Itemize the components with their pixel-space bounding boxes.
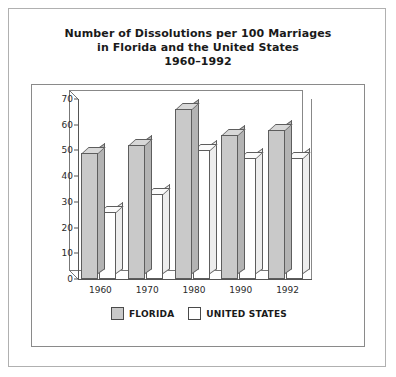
x-tick-label: 1980 [183, 285, 206, 295]
y-tick-label: 20 [62, 223, 73, 233]
x-axis-line [78, 279, 312, 280]
bar-front-face [81, 153, 98, 279]
plot-frame-top [69, 90, 303, 91]
bar-side-face [238, 125, 245, 274]
chart-card: 010203040506070 19601970198019901992 FLO… [31, 84, 365, 347]
y-axis-line [78, 99, 79, 279]
bar-front-face [128, 145, 145, 279]
bar-1960-florida [81, 153, 98, 279]
bar-side-face [145, 135, 152, 274]
bar-side-face [192, 99, 199, 274]
y-tick-mark [74, 99, 78, 100]
chart-title-line-1: Number of Dissolutions per 100 Marriages [9, 27, 387, 41]
bar-1980-florida [175, 109, 192, 279]
plot-area: 010203040506070 19601970198019901992 [78, 99, 312, 279]
y-tick-label: 60 [62, 120, 73, 130]
y-tick-label: 40 [62, 171, 73, 181]
y-tick-label: 0 [67, 274, 73, 284]
legend-label-united-states: UNITED STATES [206, 309, 287, 319]
chart-title-line-3: 1960–1992 [9, 55, 387, 69]
bar-1970-florida [128, 145, 145, 279]
y-tick-mark [74, 227, 78, 228]
y-tick-label: 50 [62, 145, 73, 155]
bar-side-face [303, 148, 310, 274]
page-frame: Number of Dissolutions per 100 Marriages… [8, 8, 386, 367]
chart-legend: FLORIDA UNITED STATES [32, 307, 366, 320]
legend-item-united-states[interactable]: UNITED STATES [188, 307, 287, 320]
legend-item-florida[interactable]: FLORIDA [111, 307, 174, 320]
y-tick-mark [74, 176, 78, 177]
chart-title-line-2: in Florida and the United States [9, 41, 387, 55]
bar-side-face [163, 184, 170, 274]
x-tick-label: 1960 [89, 285, 112, 295]
legend-label-florida: FLORIDA [129, 309, 174, 319]
bar-side-face [210, 141, 217, 274]
y-tick-mark [74, 201, 78, 202]
bar-side-face [116, 202, 123, 274]
y-tick-mark [74, 279, 78, 280]
y-tick-label: 30 [62, 197, 73, 207]
plot-frame-right-front [311, 99, 312, 279]
x-tick-label: 1990 [229, 285, 252, 295]
x-tick-label: 1970 [136, 285, 159, 295]
y-tick-mark [74, 150, 78, 151]
bar-front-face [221, 135, 238, 279]
bar-side-face [98, 143, 105, 274]
y-tick-label: 70 [62, 94, 73, 104]
bar-front-face [175, 109, 192, 279]
bar-side-face [285, 120, 292, 274]
legend-swatch-florida [111, 307, 124, 320]
x-tick-label: 1992 [276, 285, 299, 295]
bar-1992-florida [268, 130, 285, 279]
chart-title: Number of Dissolutions per 100 Marriages… [9, 27, 387, 69]
y-tick-mark [74, 124, 78, 125]
legend-swatch-united-states [188, 307, 201, 320]
bar-1990-florida [221, 135, 238, 279]
y-tick-label: 10 [62, 248, 73, 258]
y-tick-mark [74, 253, 78, 254]
bar-side-face [256, 148, 263, 274]
bar-front-face [268, 130, 285, 279]
